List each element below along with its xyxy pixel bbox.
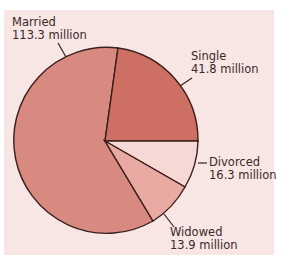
label-single-value: 41.8 million — [191, 63, 259, 76]
leader-married — [58, 43, 66, 57]
slice-single — [105, 48, 198, 141]
label-single: Single 41.8 million — [191, 50, 259, 76]
label-widowed-value: 13.9 million — [170, 239, 238, 252]
label-divorced: Divorced 16.3 million — [209, 156, 277, 182]
label-widowed: Widowed 13.9 million — [170, 226, 238, 252]
label-married-value: 113.3 million — [12, 29, 87, 42]
label-married: Married 113.3 million — [12, 16, 87, 42]
label-divorced-value: 16.3 million — [209, 169, 277, 182]
leader-single — [180, 78, 192, 86]
